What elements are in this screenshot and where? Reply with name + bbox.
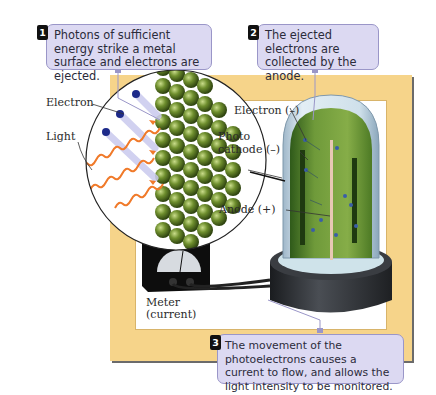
callout-2: The ejected electrons are collected by t… [257, 24, 379, 70]
label-anode: Anode (+) [219, 203, 276, 216]
label-light: Light [46, 130, 75, 143]
label-electron-left: Electron [46, 96, 94, 109]
callout-1: Photons of sufficient energy strike a me… [46, 24, 212, 70]
callout-1-number: 1 [37, 25, 48, 40]
label-cathode: cathode (–) [218, 143, 280, 156]
phototube-glass [283, 95, 379, 260]
callout-3: The movement of the photoelectrons cause… [217, 334, 404, 384]
label-photo: Photo [218, 130, 250, 143]
label-electron-right: Electron (–) [234, 104, 299, 117]
callout-3-text: The movement of the photoelectrons cause… [225, 339, 393, 393]
callout-2-number: 2 [248, 25, 259, 40]
label-current: (current) [146, 308, 196, 321]
callout-3-number: 3 [210, 335, 221, 350]
